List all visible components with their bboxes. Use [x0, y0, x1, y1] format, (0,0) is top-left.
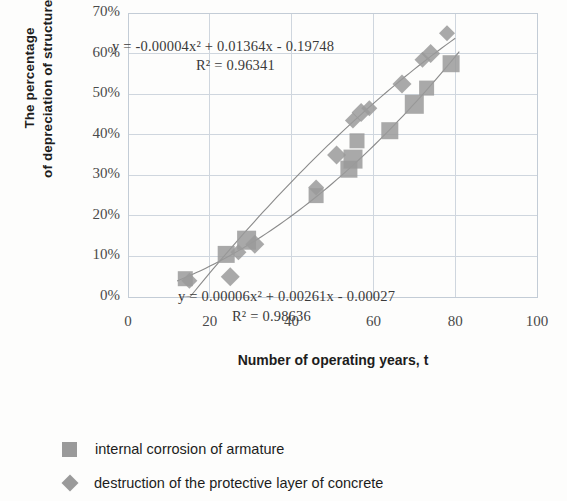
x-tick-label: 20	[190, 313, 230, 330]
legend-label-1: destruction of the protective layer of c…	[94, 475, 383, 491]
data-point	[393, 75, 412, 94]
y-tick-label: 0%	[66, 287, 120, 304]
data-point	[350, 133, 365, 148]
x-tick-label: 0	[108, 313, 148, 330]
data-point	[381, 122, 398, 139]
series-0-markers	[178, 55, 460, 286]
chart-figure: The percentage of depreciation of struct…	[0, 0, 567, 501]
y-tick-label: 30%	[66, 165, 120, 182]
legend-item-internal-corrosion[interactable]: internal corrosion of armature	[62, 432, 383, 466]
x-tick-label: 80	[435, 313, 475, 330]
chart-legend: internal corrosion of armature destructi…	[62, 432, 383, 500]
x-tick-label: 100	[517, 313, 557, 330]
y-tick-label: 70%	[66, 3, 120, 20]
data-point	[405, 95, 424, 114]
data-point	[439, 25, 455, 41]
legend-item-protective-layer[interactable]: destruction of the protective layer of c…	[62, 466, 383, 500]
annotation-r2_bot: R² = 0.98636	[232, 308, 311, 325]
data-point	[218, 246, 235, 263]
annotation-eq_bot: y = 0.00006x² + 0.00261x - 0.00027	[178, 288, 395, 305]
x-tick-label: 60	[353, 313, 393, 330]
annotation-r2_top: R² = 0.96341	[196, 57, 275, 74]
data-point	[443, 55, 460, 72]
y-tick-label: 50%	[66, 84, 120, 101]
data-point	[344, 150, 363, 169]
x-axis-title: Number of operating years, t	[128, 352, 538, 368]
y-tick-label: 10%	[66, 246, 120, 263]
y-tick-label: 20%	[66, 206, 120, 223]
y-tick-label: 40%	[66, 125, 120, 142]
square-marker-icon	[62, 442, 77, 457]
legend-label-0: internal corrosion of armature	[95, 441, 284, 457]
diamond-marker-icon	[62, 475, 79, 492]
data-point	[419, 81, 434, 96]
annotation-eq_top: y = -0.00004x² + 0.01364x - 0.19748	[112, 38, 334, 55]
data-point	[221, 267, 240, 286]
